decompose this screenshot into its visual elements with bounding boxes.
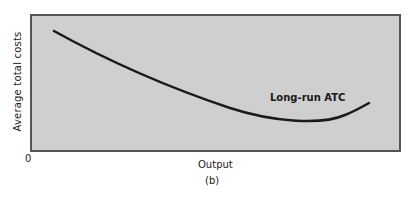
panel-label: (b): [205, 175, 219, 186]
curve-annotation: Long-run ATC: [270, 92, 345, 103]
plot-area: [31, 15, 400, 151]
origin-label: 0: [25, 153, 31, 164]
chart-canvas: [0, 0, 415, 201]
y-axis-label: Average total costs: [12, 27, 23, 137]
x-axis-label: Output: [198, 159, 233, 170]
